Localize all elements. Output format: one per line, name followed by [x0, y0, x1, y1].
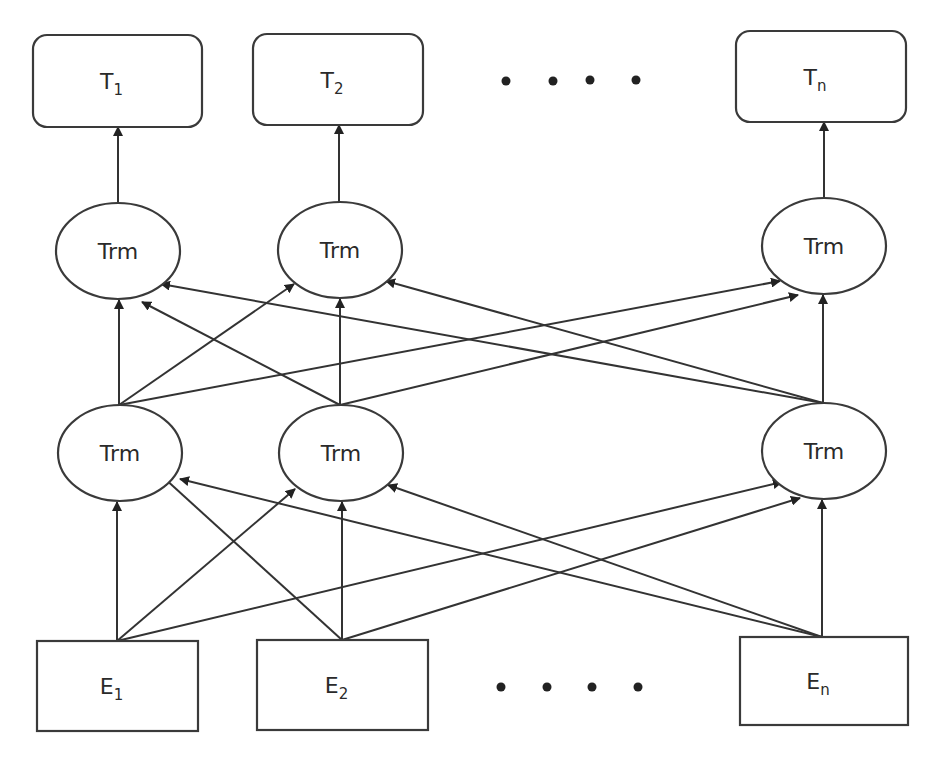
- ellipsis-dot: [586, 76, 595, 85]
- arrow-edge: [117, 489, 295, 641]
- transformer-label: Trm: [320, 441, 361, 466]
- output-token-t2: T2: [253, 34, 423, 125]
- ellipsis-dot: [497, 683, 506, 692]
- transformer-label: Trm: [319, 238, 360, 263]
- lower-trm-ln: Trm: [762, 403, 886, 499]
- lower-trm-l2: Trm: [279, 405, 403, 501]
- upper-trm-u2: Trm: [278, 202, 402, 298]
- edges-group: [117, 122, 824, 641]
- upper-trm-u1: Trm: [56, 203, 180, 299]
- input-embedding-en: En: [740, 637, 908, 725]
- arrow-edge: [163, 477, 342, 640]
- ellipsis-dot: [502, 77, 511, 86]
- transformer-label: Trm: [99, 441, 140, 466]
- arrow-edge: [342, 498, 800, 640]
- ellipsis-dot: [632, 76, 641, 85]
- ellipsis-dot: [543, 683, 552, 692]
- transformer-label: Trm: [97, 239, 138, 264]
- arrow-edge: [142, 302, 340, 405]
- ellipsis-group: [497, 76, 643, 692]
- transformer-label: Trm: [803, 234, 844, 259]
- arrow-edge: [180, 479, 822, 637]
- arrow-edge: [119, 284, 294, 405]
- ellipsis-dot: [634, 683, 643, 692]
- transformer-label: Trm: [803, 439, 844, 464]
- output-token-tn: Tn: [736, 31, 906, 122]
- input-embedding-e2: E2: [257, 640, 428, 730]
- arrow-edge: [161, 284, 823, 403]
- ellipsis-dot: [588, 683, 597, 692]
- upper-trm-un: Trm: [762, 198, 886, 294]
- ellipsis-dot: [549, 77, 558, 86]
- lower-trm-l1: Trm: [58, 405, 182, 501]
- output-token-t1: T1: [33, 35, 202, 127]
- input-embedding-e1: E1: [37, 641, 198, 731]
- bert-diagram: T1T2TnTrmTrmTrmTrmTrmTrmE1E2En: [0, 0, 939, 760]
